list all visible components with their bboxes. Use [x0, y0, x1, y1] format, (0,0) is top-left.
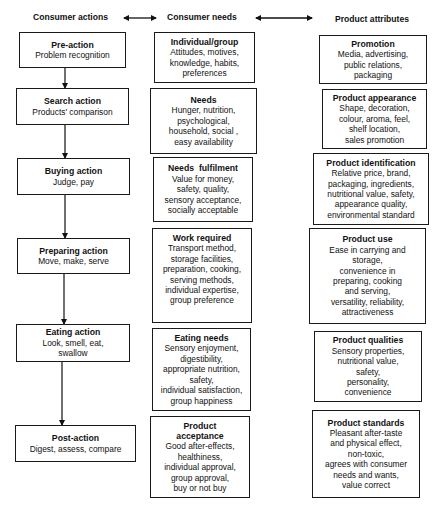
box-body: Problem recognition: [22, 50, 123, 60]
box-body: Sensory properties, nutritional value, s…: [317, 346, 419, 398]
box-body: Products' comparison: [19, 107, 126, 117]
attribute-box-product-qualities: Product qualities Sensory properties, nu…: [314, 331, 422, 402]
box-title: Post-action: [18, 433, 133, 443]
box-title: Product acceptance: [153, 421, 247, 442]
box-title: Preparing action: [20, 246, 127, 256]
box-body: Ease in carrying and storage, convenienc…: [312, 245, 423, 318]
box-body: Attitudes, motives, knowledge, habits, p…: [157, 47, 252, 78]
attribute-box-promotion: Promotion Media, advertising, public rel…: [319, 35, 427, 84]
needs-box-needs-fulfilment: Needs fulfilment Value for money, safety…: [153, 157, 253, 222]
box-title: Buying action: [20, 166, 127, 176]
action-box-post-action: Post-action Digest, assess, compare: [15, 425, 136, 462]
header-product-attributes: Product attributes: [335, 14, 409, 24]
box-title: Product standards: [315, 418, 417, 428]
box-title: Pre-action: [22, 40, 123, 50]
action-box-preparing-action: Preparing action Move, make, serve: [17, 238, 130, 274]
box-body: Sensory enjoyment, digestibility, approp…: [155, 343, 248, 405]
box-body: Value for money, safety, quality, sensor…: [156, 174, 250, 216]
box-title: Search action: [19, 96, 126, 106]
box-body: Look, smell, eat, swallow: [19, 338, 127, 359]
box-body: Transport method, storage facilities, pr…: [155, 243, 249, 305]
box-body: Relative price, brand, packaging, ingred…: [316, 168, 426, 220]
needs-box-eating-needs: Eating needs Sensory enjoyment, digestib…: [152, 328, 251, 411]
needs-box-individual-group: Individual/group Attitudes, motives, kno…: [154, 32, 255, 83]
attribute-box-product-identification: Product identification Relative price, b…: [313, 153, 429, 225]
box-title: Individual/group: [157, 37, 252, 47]
attribute-box-product-appearance: Product appearance Shape, decoration, co…: [322, 89, 427, 149]
box-title: Product qualities: [317, 335, 419, 345]
header-consumer-needs: Consumer needs: [167, 12, 237, 22]
box-title: Eating action: [19, 327, 127, 337]
needs-box-needs: Needs Hunger, nutrition, psychological, …: [150, 88, 257, 154]
box-title: Product appearance: [325, 93, 424, 103]
box-title: Product identification: [316, 158, 426, 168]
box-title: Promotion: [322, 39, 424, 49]
box-body: Digest, assess, compare: [18, 444, 133, 454]
action-box-eating-action: Eating action Look, smell, eat, swallow: [16, 324, 130, 362]
box-body: Judge, pay: [20, 177, 127, 187]
box-title: Product use: [312, 234, 423, 244]
action-box-pre-action: Pre-action Problem recognition: [19, 32, 126, 68]
attribute-box-product-use: Product use Ease in carrying and storage…: [309, 228, 426, 324]
action-box-buying-action: Buying action Judge, pay: [17, 158, 130, 195]
box-title: Needs: [153, 95, 254, 105]
header-consumer-actions: Consumer actions: [33, 12, 108, 22]
box-body: Pleasant after-taste and physical effect…: [315, 428, 417, 490]
box-body: Move, make, serve: [20, 256, 127, 266]
box-body: Media, advertising, public relations, pa…: [322, 49, 424, 80]
needs-box-work-required: Work required Transport method, storage …: [152, 228, 252, 323]
box-title: Needs fulfilment: [156, 163, 250, 173]
box-title: Work required: [155, 233, 249, 243]
box-body: Shape, decoration, colour, aroma, feel, …: [325, 103, 424, 145]
attribute-box-product-standards: Product standards Pleasant after-taste a…: [312, 410, 420, 498]
box-title: Eating needs: [155, 333, 248, 343]
box-body: Hunger, nutrition, psychological, househ…: [153, 105, 254, 147]
action-box-search-action: Search action Products' comparison: [16, 88, 129, 125]
box-body: Good after-effects, healthiness, individ…: [153, 441, 247, 493]
needs-box-product-acceptance: Product acceptance Good after-effects, h…: [150, 416, 250, 498]
